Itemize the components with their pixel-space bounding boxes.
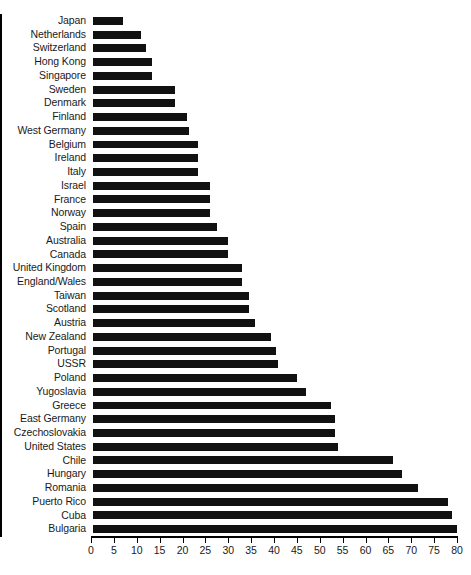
bar-row: Israel	[0, 179, 471, 193]
x-axis-tick-mark	[297, 536, 298, 543]
x-axis-tick-mark	[205, 536, 206, 543]
bar	[93, 17, 123, 25]
bar-category-label: Chile	[0, 454, 86, 468]
bar-row: Chile	[0, 454, 471, 468]
bar	[93, 319, 255, 327]
bar-category-label: Hungary	[0, 467, 86, 481]
x-axis-tick-mark	[91, 536, 92, 543]
x-axis-tick-label: 55	[331, 544, 355, 556]
x-axis-tick-mark	[320, 536, 321, 543]
x-axis-tick-label: 15	[148, 544, 172, 556]
bar-row: Italy	[0, 165, 471, 179]
bar-row: Japan	[0, 14, 471, 28]
bar	[93, 99, 175, 107]
bar-row: West Germany	[0, 124, 471, 138]
bar-row: United Kingdom	[0, 261, 471, 275]
bar-category-label: New Zealand	[0, 330, 86, 344]
bar	[93, 113, 187, 121]
bar-row: Singapore	[0, 69, 471, 83]
bar	[93, 484, 418, 492]
bar-category-label: Poland	[0, 371, 86, 385]
x-axis-tick-label: 60	[354, 544, 378, 556]
bar	[93, 292, 249, 300]
bar	[93, 250, 228, 258]
bar-category-label: Italy	[0, 165, 86, 179]
bar-category-label: United Kingdom	[0, 261, 86, 275]
bar	[93, 498, 448, 506]
x-axis-tick-label: 50	[308, 544, 332, 556]
bar-row: USSR	[0, 357, 471, 371]
bar-category-label: Australia	[0, 234, 86, 248]
x-axis-tick-label: 25	[193, 544, 217, 556]
bar-row: Poland	[0, 371, 471, 385]
x-axis-tick-label: 20	[171, 544, 195, 556]
bar	[93, 525, 457, 533]
x-axis-tick-mark	[137, 536, 138, 543]
bar-row: Finland	[0, 110, 471, 124]
x-axis-tick-mark	[457, 536, 458, 543]
x-axis-tick-mark	[160, 536, 161, 543]
bar-category-label: United States	[0, 440, 86, 454]
bar-row: Czechoslovakia	[0, 426, 471, 440]
x-axis-tick-label: 75	[422, 544, 446, 556]
bar	[93, 470, 402, 478]
bar-category-label: Israel	[0, 179, 86, 193]
bar-row: Austria	[0, 316, 471, 330]
bar-category-label: Austria	[0, 316, 86, 330]
bar	[93, 511, 452, 519]
bar-row: England/Wales	[0, 275, 471, 289]
x-axis-tick-mark	[411, 536, 412, 543]
bar	[93, 443, 338, 451]
bar	[93, 195, 210, 203]
bar	[93, 402, 331, 410]
bar-row: Scotland	[0, 302, 471, 316]
bar-row: Taiwan	[0, 289, 471, 303]
x-axis-tick-label: 45	[285, 544, 309, 556]
bar-category-label: Portugal	[0, 344, 86, 358]
x-axis-tick-label: 5	[102, 544, 126, 556]
bar-category-label: England/Wales	[0, 275, 86, 289]
bar	[93, 141, 198, 149]
bar	[93, 223, 217, 231]
bar-category-label: Greece	[0, 399, 86, 413]
bar	[93, 374, 297, 382]
bar-category-label: Cuba	[0, 509, 86, 523]
bar-row: Yugoslavia	[0, 385, 471, 399]
bar-row: Hong Kong	[0, 55, 471, 69]
x-axis-tick-label: 70	[399, 544, 423, 556]
bar	[93, 31, 141, 39]
bar-category-label: Puerto Rico	[0, 495, 86, 509]
bar-category-label: Norway	[0, 206, 86, 220]
bar-row: Puerto Rico	[0, 495, 471, 509]
bar-category-label: Japan	[0, 14, 86, 28]
bar-row: Belgium	[0, 138, 471, 152]
bar-category-label: Bulgaria	[0, 522, 86, 536]
bar-row: Spain	[0, 220, 471, 234]
bar-row: Greece	[0, 399, 471, 413]
bar	[93, 278, 242, 286]
bar-row: Netherlands	[0, 28, 471, 42]
bar-row: Switzerland	[0, 41, 471, 55]
x-axis-tick-mark	[274, 536, 275, 543]
bar	[93, 456, 393, 464]
x-axis-tick-mark	[114, 536, 115, 543]
x-axis-tick-label: 40	[262, 544, 286, 556]
bar-category-label: Singapore	[0, 69, 86, 83]
bar-category-label: Denmark	[0, 96, 86, 110]
bar	[93, 429, 335, 437]
bar	[93, 86, 175, 94]
bar	[93, 415, 335, 423]
bar-category-label: Ireland	[0, 151, 86, 165]
x-axis-tick-label: 30	[216, 544, 240, 556]
bar-category-label: Belgium	[0, 138, 86, 152]
bar-category-label: Spain	[0, 220, 86, 234]
bar	[93, 168, 198, 176]
bar-category-label: East Germany	[0, 412, 86, 426]
x-axis-tick-mark	[388, 536, 389, 543]
bar-category-label: Canada	[0, 248, 86, 262]
x-axis-tick-mark	[251, 536, 252, 543]
bar-category-label: Sweden	[0, 83, 86, 97]
x-axis-tick-mark	[366, 536, 367, 543]
bar-category-label: Yugoslavia	[0, 385, 86, 399]
bar-row: Hungary	[0, 467, 471, 481]
